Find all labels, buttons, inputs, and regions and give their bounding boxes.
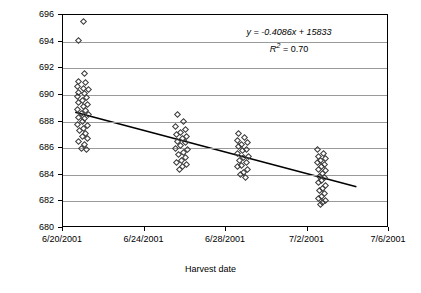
y-axis-tick-label: 696: [0, 10, 54, 19]
regression-equation: y = -0.4086x + 15833: [214, 26, 364, 39]
x-axis-tick-label: 7/2/2001: [267, 235, 347, 244]
x-axis-tick: [388, 227, 389, 231]
y-axis-tick: [58, 174, 62, 175]
y-axis-tick-label: 692: [0, 63, 54, 72]
y-axis-tick: [58, 200, 62, 201]
x-axis-tick-label: 6/20/2001: [22, 235, 102, 244]
x-axis-tick: [225, 227, 226, 231]
x-axis-tick-label: 6/28/2001: [185, 235, 265, 244]
y-axis-tick-label: 684: [0, 170, 54, 179]
gridline: [63, 122, 387, 123]
x-axis-tick: [62, 227, 63, 231]
x-axis-tick: [144, 227, 145, 231]
y-axis-tick-label: 688: [0, 117, 54, 126]
r-squared: R2 = 0.70: [214, 39, 364, 56]
y-axis-tick: [58, 147, 62, 148]
y-axis-tick: [58, 94, 62, 95]
y-axis-tick-label: 680: [0, 223, 54, 232]
x-axis-tick-label: 7/6/2001: [348, 235, 421, 244]
red-edge-scatter-chart: Red-edge [nm] Harvest date y = -0.4086x …: [0, 0, 421, 293]
y-axis-tick: [58, 14, 62, 15]
gridline: [63, 68, 387, 69]
gridline: [63, 95, 387, 96]
y-axis-tick: [58, 41, 62, 42]
x-axis-tick-label: 6/24/2001: [104, 235, 184, 244]
y-axis-tick-label: 686: [0, 143, 54, 152]
gridline: [63, 148, 387, 149]
y-axis-tick-label: 694: [0, 37, 54, 46]
gridline: [63, 175, 387, 176]
r-squared-value: = 0.70: [280, 44, 308, 54]
y-axis-tick: [58, 121, 62, 122]
y-axis-tick-label: 690: [0, 90, 54, 99]
y-axis-tick: [58, 67, 62, 68]
x-axis-tick: [307, 227, 308, 231]
gridline: [63, 201, 387, 202]
regression-annotation: y = -0.4086x + 15833 R2 = 0.70: [214, 26, 364, 56]
x-axis-title: Harvest date: [0, 265, 421, 274]
y-axis-tick-label: 682: [0, 196, 54, 205]
